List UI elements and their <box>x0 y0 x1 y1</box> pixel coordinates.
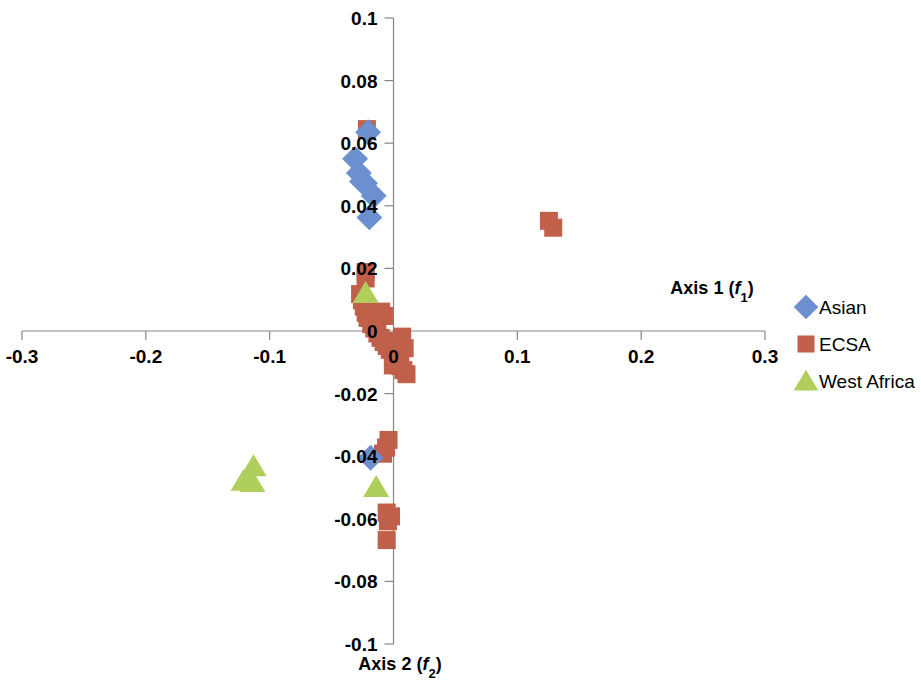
legend: AsianECSAWest Africa <box>794 295 916 392</box>
data-point <box>544 219 562 237</box>
x-axis-title: Axis 1 (f1) <box>670 278 753 305</box>
y-tick-label: 0.06 <box>341 133 378 154</box>
series-ecsa <box>351 120 562 549</box>
x-tick-label: -0.3 <box>6 346 39 367</box>
y-tick-label: -0.1 <box>345 634 378 655</box>
legend-item[interactable]: West Africa <box>794 370 916 392</box>
y-tick-label: 0 <box>367 321 378 342</box>
legend-label: West Africa <box>819 371 915 392</box>
scatter-plot-figure: -0.3-0.2-0.100.10.20.3-0.1-0.08-0.06-0.0… <box>0 0 921 680</box>
x-tick-label: 0.1 <box>504 346 531 367</box>
legend-marker-triangle <box>794 370 819 391</box>
y-tick-label: -0.08 <box>334 571 377 592</box>
x-tick-label: -0.2 <box>129 346 162 367</box>
x-tick-label: 0.2 <box>628 346 654 367</box>
legend-marker-square <box>798 336 815 353</box>
y-tick-label: 0.02 <box>341 258 378 279</box>
legend-item[interactable]: Asian <box>794 295 867 319</box>
y-tick-label: 0.04 <box>341 196 378 217</box>
legend-label: Asian <box>819 297 867 318</box>
plot-canvas: -0.3-0.2-0.100.10.20.3-0.1-0.08-0.06-0.0… <box>0 0 921 680</box>
x-tick-label: -0.1 <box>253 346 286 367</box>
y-tick-label: -0.02 <box>334 384 377 405</box>
x-tick-label: 0 <box>388 346 399 367</box>
y-tick-label: 0.08 <box>341 71 378 92</box>
legend-marker-diamond <box>794 295 818 319</box>
data-point <box>363 475 389 497</box>
y-tick-label: -0.04 <box>334 446 378 467</box>
y-axis-title: Axis 2 (f2) <box>358 654 441 680</box>
legend-label: ECSA <box>819 334 871 355</box>
y-tick-label: -0.06 <box>334 509 377 530</box>
axis-titles-layer: Axis 1 (f1)Axis 2 (f2) <box>358 278 753 680</box>
data-points-layer <box>231 119 563 549</box>
legend-item[interactable]: ECSA <box>798 334 872 355</box>
x-tick-label: 0.3 <box>752 346 778 367</box>
data-point <box>398 365 416 383</box>
y-tick-label: 0.1 <box>351 8 378 29</box>
data-point <box>378 531 396 549</box>
data-point <box>379 512 397 530</box>
